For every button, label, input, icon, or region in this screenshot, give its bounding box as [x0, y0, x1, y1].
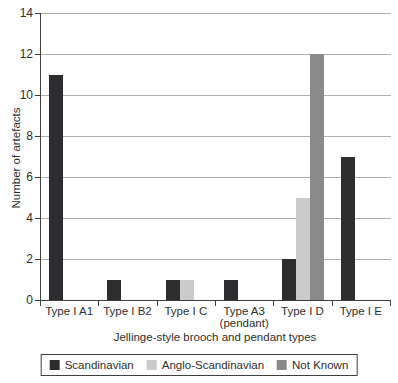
legend-item-not-known: Not Known — [277, 359, 348, 371]
y-axis-tick-mark — [35, 259, 40, 260]
bar-group — [216, 13, 274, 300]
y-axis-tick-mark — [35, 54, 40, 55]
legend-label: Scandinavian — [65, 359, 134, 371]
y-axis-tick-label: 4 — [6, 211, 33, 225]
bar-group — [158, 13, 216, 300]
bar-scandinavian — [107, 280, 121, 301]
x-axis-tick-mark — [390, 301, 391, 306]
y-axis-tick-mark — [35, 13, 40, 14]
y-axis-tick-label: 0 — [6, 293, 33, 307]
scandinavian-swatch-icon — [50, 360, 60, 370]
bar-group — [274, 13, 332, 300]
x-axis-tick-mark — [273, 301, 274, 306]
y-axis-tick-label: 10 — [6, 88, 33, 102]
y-axis-tick-mark — [35, 177, 40, 178]
x-axis-category-label: Type I E — [332, 305, 390, 317]
legend-label: Anglo-Scandinavian — [162, 359, 264, 371]
plot-area — [40, 13, 391, 301]
y-axis-tick-mark — [35, 95, 40, 96]
bar-scandinavian — [49, 75, 63, 301]
bar-scandinavian — [341, 157, 355, 301]
y-axis-tick-label: 12 — [6, 47, 33, 61]
legend-label: Not Known — [292, 359, 348, 371]
x-axis-tick-mark — [157, 301, 158, 306]
bar-scandinavian — [224, 280, 238, 301]
bar-anglo-scandinavian — [180, 280, 194, 301]
bar-anglo-scandinavian — [296, 198, 310, 301]
legend-item-scandinavian: Scandinavian — [50, 359, 134, 371]
anglo-scandinavian-swatch-icon — [147, 360, 157, 370]
not-known-swatch-icon — [277, 360, 287, 370]
y-axis-tick-label: 6 — [6, 170, 33, 184]
x-axis-tick-mark — [98, 301, 99, 306]
bar-group — [333, 13, 391, 300]
x-axis-tick-mark — [40, 301, 41, 306]
bar-scandinavian — [166, 280, 180, 301]
bar-group — [41, 13, 99, 300]
x-axis-category-label: Type I A1 — [40, 305, 98, 317]
y-axis-tick-label: 2 — [6, 252, 33, 266]
x-axis-category-label: Type I C — [157, 305, 215, 317]
x-axis-category-label: Type A3 (pendant) — [215, 305, 273, 329]
x-axis-title: Jellinge-style brooch and pendant types — [40, 331, 390, 343]
bar-scandinavian — [282, 259, 296, 300]
bar-group — [99, 13, 157, 300]
x-axis-tick-mark — [215, 301, 216, 306]
bar-not-known — [310, 54, 324, 300]
x-axis-category-label: Type I B2 — [98, 305, 156, 317]
y-axis-tick-label: 14 — [6, 6, 33, 20]
bar-chart-figure: Number of artefacts Jellinge-style brooc… — [0, 0, 398, 383]
x-axis-category-label: Type I D — [273, 305, 331, 317]
y-axis-tick-label: 8 — [6, 129, 33, 143]
legend: ScandinavianAnglo-ScandinavianNot Known — [41, 354, 358, 376]
y-axis-tick-mark — [35, 218, 40, 219]
legend-item-anglo-scandinavian: Anglo-Scandinavian — [147, 359, 264, 371]
y-axis-tick-mark — [35, 136, 40, 137]
x-axis-tick-mark — [332, 301, 333, 306]
